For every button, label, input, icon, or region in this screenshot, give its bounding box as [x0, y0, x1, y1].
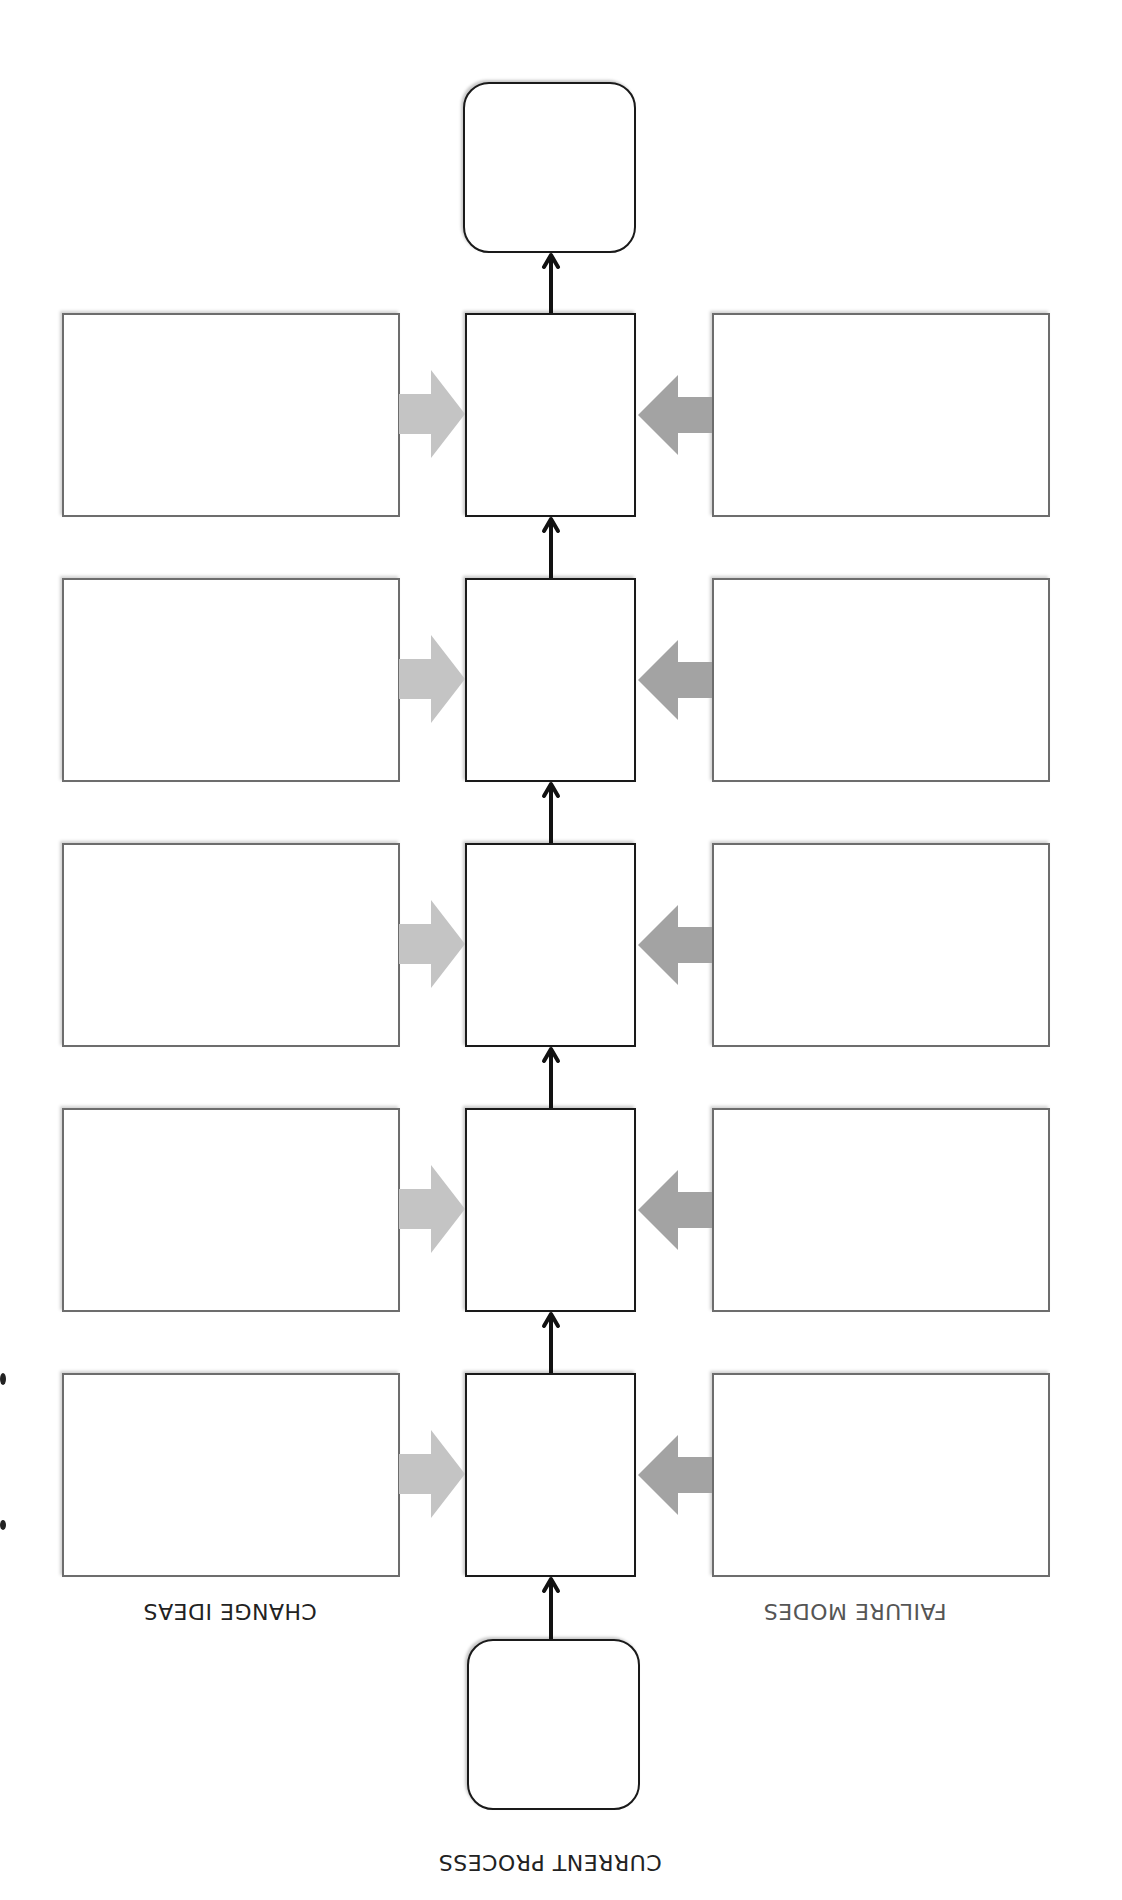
change-idea-arrow-icon	[399, 635, 465, 723]
flow-arrow-down-icon	[541, 251, 561, 313]
failure-mode-arrow-icon	[636, 905, 712, 985]
change-idea-box-2[interactable]	[62, 1108, 400, 1312]
failure-mode-arrow-icon	[636, 640, 712, 720]
flow-arrow-down-icon	[541, 1575, 561, 1639]
change-idea-arrow-icon	[399, 1165, 465, 1253]
flow-arrow-down-icon	[541, 780, 561, 843]
process-step-box-3[interactable]	[465, 843, 636, 1047]
failure-mode-arrow-icon	[636, 375, 712, 455]
failure-modes-label: FAILURE MODES	[763, 1599, 946, 1624]
failure-mode-box-2[interactable]	[712, 1108, 1050, 1312]
process-step-box-2[interactable]	[465, 1108, 636, 1312]
flow-arrow-down-icon	[541, 1045, 561, 1108]
edge-mark	[0, 1373, 6, 1385]
failure-mode-box-4[interactable]	[712, 578, 1050, 782]
flow-arrow-down-icon	[541, 1310, 561, 1373]
change-idea-box-3[interactable]	[62, 843, 400, 1047]
current-process-label: CURRENT PROCESS	[438, 1850, 661, 1875]
diagram-canvas: CURRENT PROCESS CHANGE IDEAS FAILURE MOD…	[0, 0, 1122, 1900]
change-ideas-label: CHANGE IDEAS	[143, 1599, 317, 1624]
process-step-box-1[interactable]	[465, 1373, 636, 1577]
failure-mode-box-1[interactable]	[712, 1373, 1050, 1577]
process-step-box-5[interactable]	[465, 313, 636, 517]
change-idea-arrow-icon	[399, 1430, 465, 1518]
end-terminal[interactable]	[463, 82, 636, 253]
edge-mark	[0, 1520, 6, 1530]
failure-mode-box-3[interactable]	[712, 843, 1050, 1047]
change-idea-box-4[interactable]	[62, 578, 400, 782]
flow-arrow-down-icon	[541, 515, 561, 578]
failure-mode-box-5[interactable]	[712, 313, 1050, 517]
process-step-box-4[interactable]	[465, 578, 636, 782]
start-terminal[interactable]	[467, 1639, 640, 1810]
change-idea-arrow-icon	[399, 900, 465, 988]
change-idea-box-5[interactable]	[62, 313, 400, 517]
failure-mode-arrow-icon	[636, 1170, 712, 1250]
failure-mode-arrow-icon	[636, 1435, 712, 1515]
change-idea-box-1[interactable]	[62, 1373, 400, 1577]
change-idea-arrow-icon	[399, 370, 465, 458]
